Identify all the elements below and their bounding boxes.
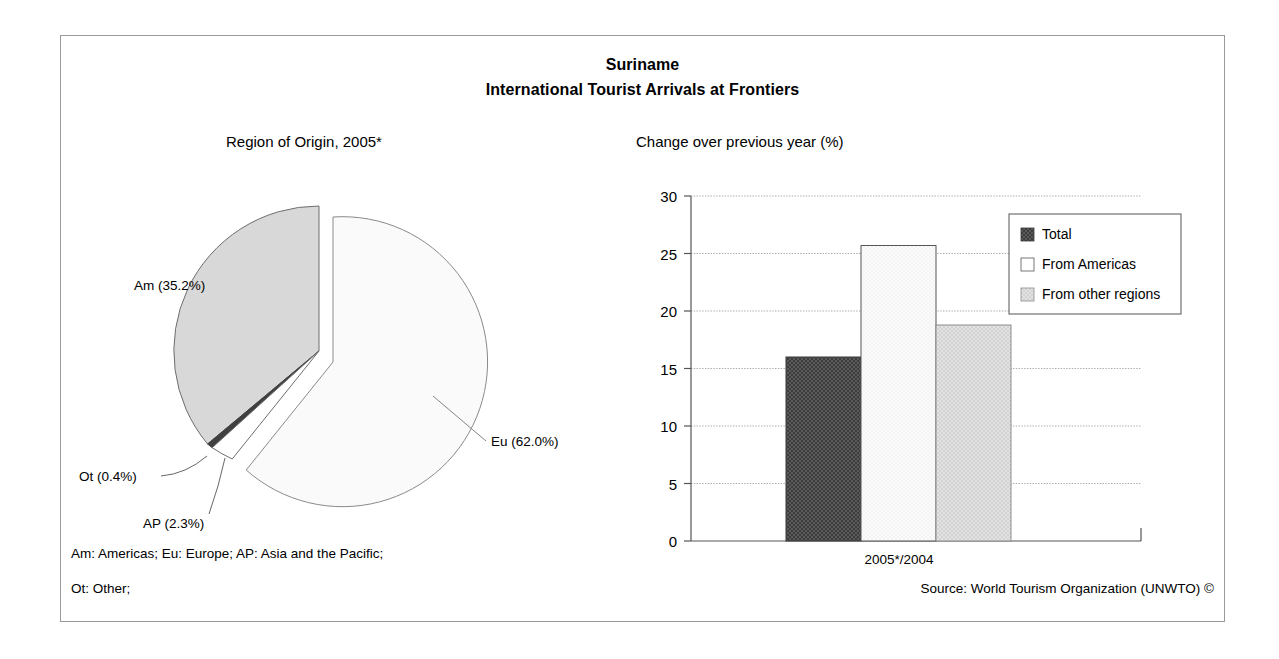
- x-category-label: 2005*/2004: [864, 552, 934, 567]
- bar-chart-legend: Total From Americas From other regions: [1009, 214, 1181, 314]
- figure-title-subject: International Tourist Arrivals at Fronti…: [61, 81, 1224, 99]
- footnote-region-abbreviations: Am: Americas; Eu: Europe; AP: Asia and t…: [71, 546, 383, 561]
- y-tick-label-30: 30: [660, 188, 677, 205]
- pie-chart-title: Region of Origin, 2005*: [226, 133, 382, 150]
- figure-title-country: Suriname: [61, 56, 1224, 74]
- y-tick-label-5: 5: [669, 476, 677, 493]
- y-tick-label-10: 10: [660, 418, 677, 435]
- pie-label-other: Ot (0.4%): [79, 469, 137, 484]
- pie-leader-line-ap: [209, 458, 225, 514]
- legend-swatch-total: [1021, 228, 1034, 241]
- legend-label-from-other-regions: From other regions: [1042, 286, 1160, 302]
- bar-from-other-regions: [936, 325, 1011, 541]
- chart-figure-frame: Suriname International Tourist Arrivals …: [60, 35, 1225, 622]
- source-attribution: Source: World Tourism Organization (UNWT…: [920, 581, 1214, 596]
- y-tick-label-0: 0: [669, 533, 677, 550]
- bar-total: [786, 357, 861, 541]
- y-tick-label-25: 25: [660, 246, 677, 263]
- legend-label-total: Total: [1042, 226, 1072, 242]
- bar-chart-panel: 30 25 20 15 10 5 0 2005*/2004 Total From: [621, 156, 1221, 576]
- y-tick-label-15: 15: [660, 361, 677, 378]
- legend-swatch-from-americas: [1021, 258, 1034, 271]
- pie-chart-svg: [61, 156, 621, 546]
- bar-from-americas: [861, 246, 936, 542]
- pie-chart-panel: Am (35.2%) Eu (62.0%) Ot (0.4%) AP (2.3%…: [61, 156, 621, 546]
- pie-label-asia-pacific: AP (2.3%): [143, 516, 204, 531]
- y-axis-ticks: [684, 196, 691, 541]
- bar-chart-title: Change over previous year (%): [636, 133, 844, 150]
- bar-chart-svg: 30 25 20 15 10 5 0 2005*/2004 Total From: [621, 156, 1221, 576]
- footnote-other-abbreviation: Ot: Other;: [71, 581, 130, 596]
- y-tick-label-20: 20: [660, 303, 677, 320]
- pie-leader-line-ot: [161, 456, 207, 476]
- legend-label-from-americas: From Americas: [1042, 256, 1136, 272]
- legend-swatch-from-other-regions: [1021, 288, 1034, 301]
- pie-label-americas: Am (35.2%): [134, 278, 205, 293]
- pie-label-europe: Eu (62.0%): [491, 434, 559, 449]
